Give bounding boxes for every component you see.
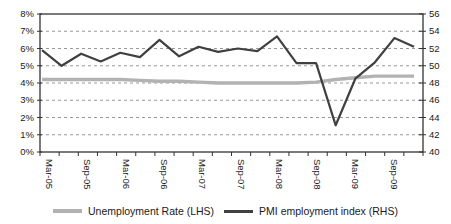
x-axis-label: Mar-09: [350, 159, 361, 189]
y-axis-right-label: 46: [429, 94, 440, 105]
x-axis-label: Sep-09: [389, 159, 400, 190]
y-axis-right-label: 54: [429, 25, 440, 36]
y-axis-left-label: 7%: [20, 25, 34, 36]
chart-panel: 8%7%6%5%4%3%2%1%0%565452504846444240Mar-…: [0, 0, 451, 224]
x-axis-label: Mar-06: [121, 159, 132, 189]
x-axis-label: Sep-08: [312, 159, 323, 190]
y-axis-right-label: 50: [429, 60, 440, 71]
chart-canvas: 8%7%6%5%4%3%2%1%0%565452504846444240Mar-…: [0, 0, 451, 224]
unemployment-line-swatch: [53, 209, 82, 213]
chart-legend: Unemployment Rate (LHS) PMI employment i…: [0, 202, 451, 220]
pmi-line-swatch: [224, 210, 253, 213]
y-axis-right: 565452504846444240: [419, 8, 440, 157]
x-axis-label: Sep-06: [159, 159, 170, 190]
y-axis-right-label: 44: [429, 112, 440, 123]
y-axis-left: 8%7%6%5%4%3%2%1%0%: [20, 8, 42, 157]
x-axis-label: Mar-08: [274, 159, 285, 189]
y-axis-right-label: 48: [429, 77, 440, 88]
legend-item-unemployment: Unemployment Rate (LHS): [53, 205, 214, 217]
y-axis-left-label: 4%: [20, 77, 34, 88]
legend-label-pmi: PMI employment index (RHS): [259, 205, 398, 217]
y-axis-left-label: 6%: [20, 43, 34, 54]
y-axis-left-label: 3%: [20, 94, 34, 105]
y-axis-left-label: 2%: [20, 112, 34, 123]
x-axis-label: Sep-07: [236, 159, 247, 190]
y-axis-left-label: 8%: [20, 8, 34, 19]
y-axis-right-label: 40: [429, 146, 440, 157]
y-axis-left-label: 1%: [20, 129, 34, 140]
x-axis-ticks: [40, 152, 423, 156]
x-axis-label: Sep-05: [82, 159, 93, 190]
legend-label-unemployment: Unemployment Rate (LHS): [88, 205, 214, 217]
y-axis-left-label: 0%: [20, 146, 34, 157]
y-axis-right-label: 56: [429, 8, 440, 19]
x-axis-label: Mar-05: [44, 159, 55, 189]
x-axis-labels: Mar-05Sep-05Mar-06Sep-06Mar-07Sep-07Mar-…: [44, 159, 400, 190]
x-axis-label: Mar-07: [197, 159, 208, 189]
y-axis-left-label: 5%: [20, 60, 34, 71]
y-axis-right-label: 42: [429, 129, 440, 140]
y-axis-right-label: 52: [429, 43, 440, 54]
legend-item-pmi: PMI employment index (RHS): [224, 205, 398, 217]
